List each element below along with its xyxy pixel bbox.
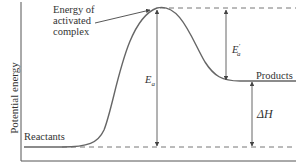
products-label: Products (256, 70, 293, 81)
ea-label: Ea (145, 73, 155, 91)
activated-complex-line-1: Energy of (53, 4, 95, 15)
ea-reverse-label: E′a (232, 41, 240, 60)
activated-complex-line-3: complex (53, 26, 95, 37)
activated-complex-label: Energy of activated complex (53, 4, 95, 37)
ea-subscript: a (151, 80, 155, 88)
reactants-label: Reactants (24, 131, 65, 142)
ea-reverse-prime: ′ (238, 42, 240, 50)
delta-h-label: ΔH (257, 109, 273, 120)
activated-complex-line-2: activated (53, 15, 95, 26)
ea-reverse-subscript: a (237, 50, 241, 58)
y-axis-label: Potential energy (8, 48, 20, 148)
